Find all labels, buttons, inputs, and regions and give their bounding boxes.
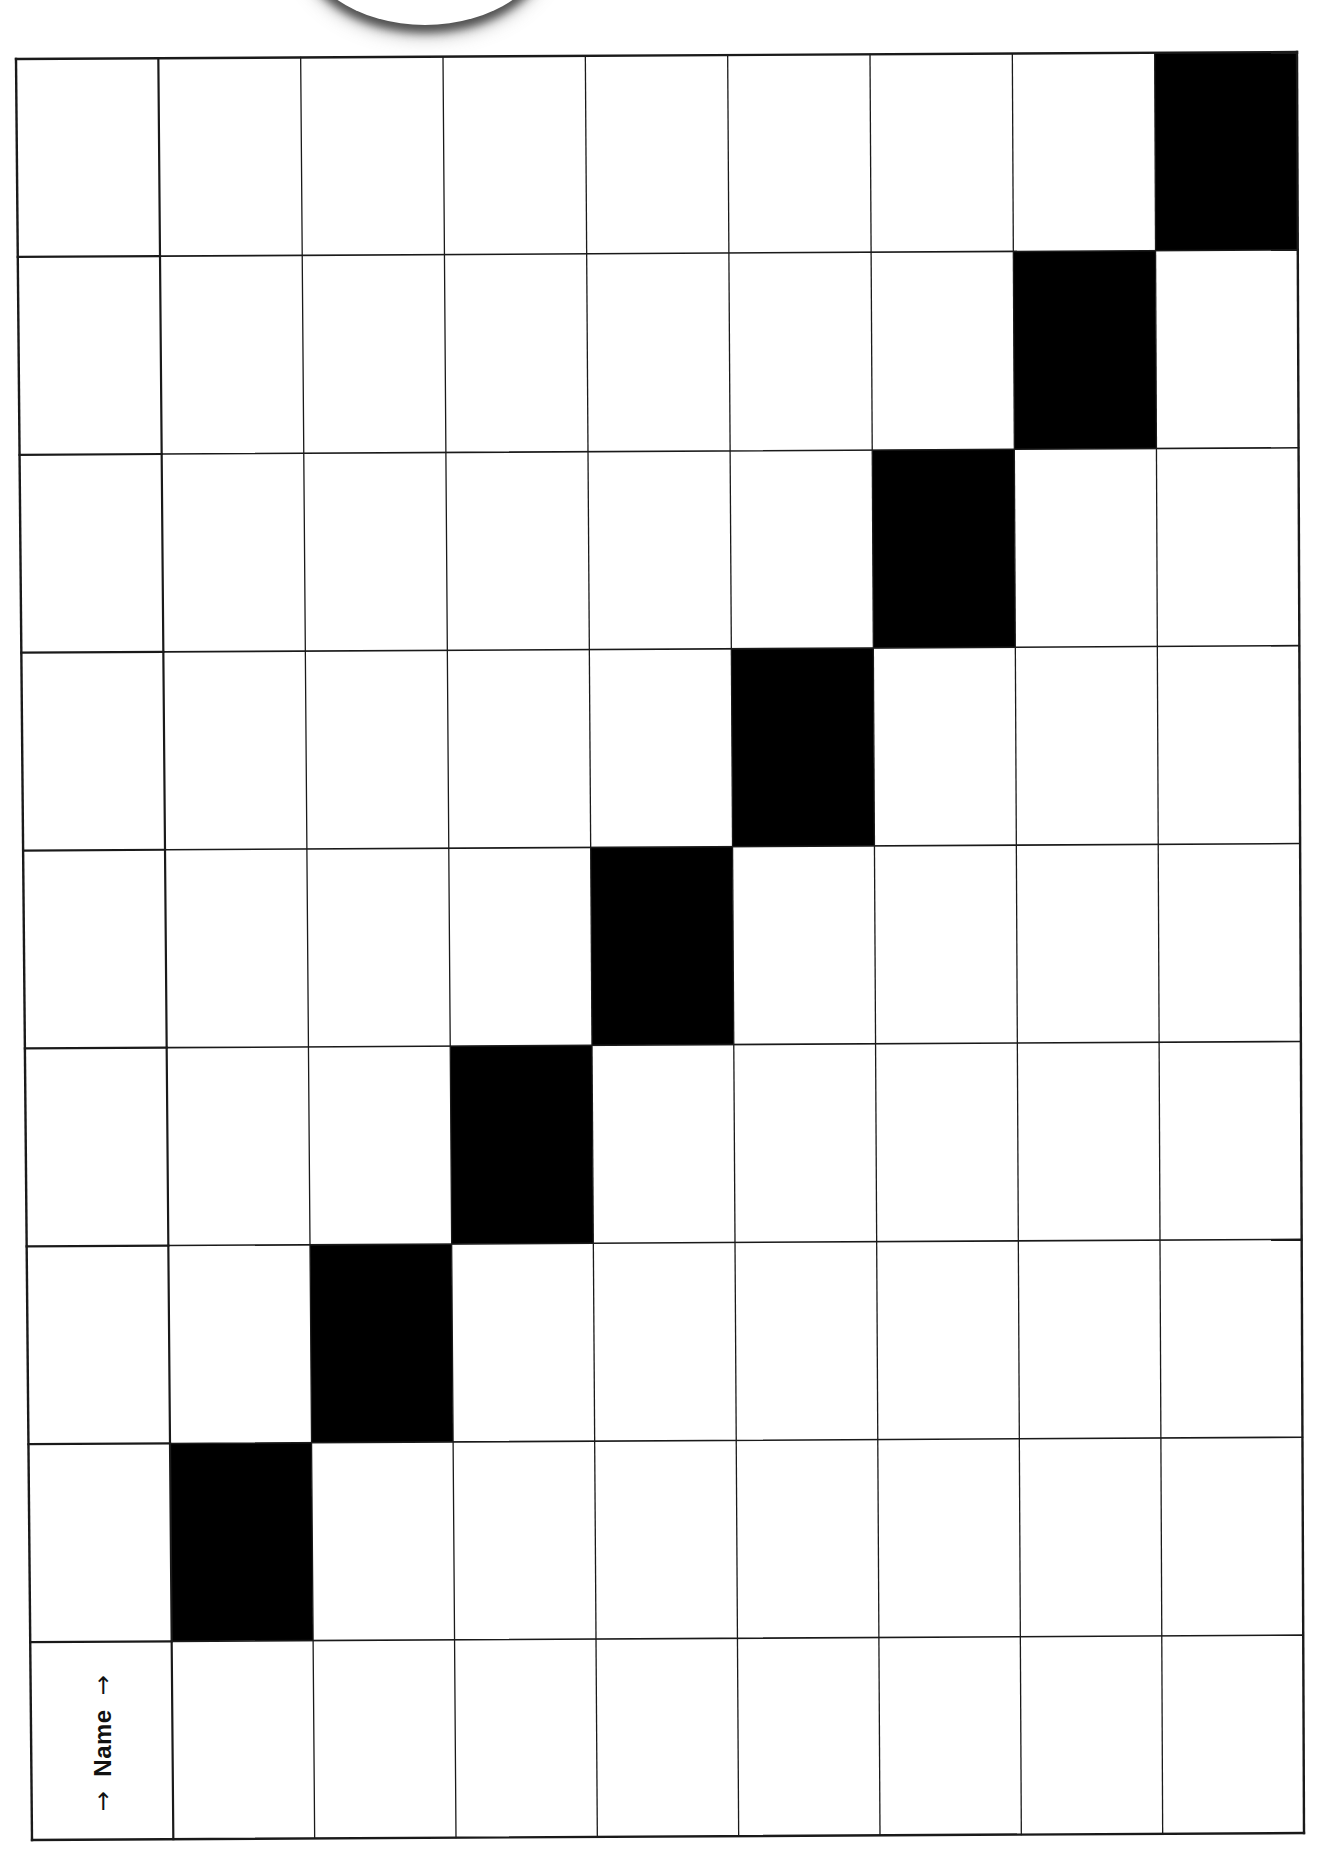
grid-cell [587, 253, 730, 452]
grid-cell [595, 1440, 738, 1639]
grid-row-line [27, 1246, 169, 1247]
grid-cell [28, 1443, 171, 1642]
grid-cell [1162, 1635, 1304, 1834]
grid-cell [588, 451, 731, 650]
grid-cell [870, 54, 1013, 253]
grid-cell [25, 1048, 168, 1247]
grid-cell [871, 251, 1014, 450]
grid-cell [302, 255, 446, 454]
grid-cell-filled [591, 847, 734, 1046]
grid-cell [1156, 448, 1299, 647]
grid-cell [1158, 844, 1301, 1043]
grid-cell [23, 850, 167, 1049]
grid-row-line [21, 652, 163, 653]
grid-cell [163, 651, 307, 850]
arrow-right-icon: → [89, 1675, 117, 1696]
grid-cell [585, 55, 729, 254]
grid-cell [18, 256, 162, 455]
grid-cell [449, 847, 592, 1046]
grid-cell [734, 1044, 877, 1243]
grid-cell [165, 849, 308, 1048]
grid-cell [312, 1442, 455, 1641]
grid-cell [876, 1043, 1019, 1242]
grid-cell [1157, 646, 1300, 845]
grid-cell [301, 57, 445, 256]
grid-cell [593, 1242, 736, 1441]
grid-row-line [23, 850, 165, 851]
grid-cell-filled [1155, 52, 1298, 251]
arrow-right-icon: → [89, 1791, 117, 1812]
grid-cell [1156, 250, 1299, 449]
grid-cell [728, 54, 871, 253]
grid-cell [874, 845, 1017, 1044]
grid-cell [1018, 1240, 1161, 1439]
grid-cell [877, 1241, 1020, 1440]
grid-cell [172, 1641, 315, 1840]
grid-cell [879, 1637, 1021, 1836]
grid-cell [1020, 1636, 1162, 1835]
grid-cell [878, 1439, 1021, 1638]
grid-row-line [28, 1443, 170, 1444]
grid-row-line [18, 256, 160, 257]
grid-cell [736, 1440, 879, 1639]
grid-cell [1160, 1239, 1302, 1438]
grid-cell [305, 650, 448, 849]
grid-row-line [30, 1641, 171, 1642]
grid-cell [21, 652, 165, 851]
grid-cells [16, 52, 1304, 1840]
grid-cell [160, 255, 304, 454]
worksheet-grid [0, 0, 1332, 1859]
grid-cell [304, 452, 448, 651]
name-field-label: →Name→ [91, 1675, 115, 1812]
grid-cell [443, 56, 587, 255]
grid-cell [733, 846, 876, 1045]
grid-cell [1012, 53, 1155, 252]
grid-cell [1016, 844, 1159, 1043]
name-label-text: Name [89, 1709, 116, 1776]
grid-cell [596, 1638, 739, 1837]
grid-cell-filled [731, 648, 874, 847]
grid-cell [444, 254, 588, 453]
grid-cell-filled [1013, 251, 1156, 450]
grid-cell [1015, 646, 1158, 845]
grid-row-line [20, 454, 162, 455]
grid-cell [307, 848, 450, 1047]
grid-cell [1019, 1438, 1161, 1637]
grid-cell [1161, 1437, 1303, 1636]
grid-cell [453, 1441, 596, 1640]
grid-cell [168, 1245, 311, 1444]
grid-cell-filled [170, 1443, 313, 1642]
grid-cell [308, 1046, 451, 1245]
grid-cell [592, 1045, 735, 1244]
grid-cell [729, 252, 872, 451]
grid-cell [158, 57, 302, 256]
grid-cell [447, 650, 590, 849]
grid-cell [735, 1242, 878, 1441]
grid-cell [589, 649, 732, 848]
grid-cell-filled [310, 1244, 453, 1443]
grid-cell [27, 1246, 170, 1445]
grid-cell [446, 452, 589, 651]
grid-cell [452, 1243, 595, 1442]
grid-cell [162, 453, 306, 652]
grid-cell-filled [872, 449, 1015, 648]
grid-cell [455, 1639, 598, 1838]
grid-cell [1014, 449, 1157, 648]
grid-cell-filled [450, 1045, 593, 1244]
grid-cell [1017, 1042, 1160, 1241]
grid-cell [873, 647, 1016, 846]
grid-cell [16, 58, 160, 257]
grid-cell [730, 450, 873, 649]
worksheet-page: →Name→ [0, 0, 1332, 1859]
grid-row-line [25, 1048, 167, 1049]
grid-cell [1159, 1041, 1302, 1240]
grid-cell [737, 1637, 880, 1836]
grid-cell [167, 1047, 310, 1246]
grid-cell [313, 1640, 456, 1839]
grid-cell [20, 454, 164, 653]
